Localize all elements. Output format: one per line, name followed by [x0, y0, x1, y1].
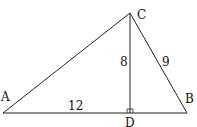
point-label-D: D [125, 116, 135, 127]
triangle-diagram: A C B D 8 9 12 [0, 0, 197, 127]
point-label-B: B [185, 92, 194, 106]
segment-label-CD: 8 [120, 55, 128, 69]
point-label-A: A [0, 90, 10, 104]
segment-AC [3, 13, 130, 113]
point-label-C: C [137, 8, 146, 22]
segment-CB [130, 13, 187, 113]
segment-label-AD: 12 [68, 99, 83, 113]
segment-label-CB: 9 [162, 55, 170, 69]
